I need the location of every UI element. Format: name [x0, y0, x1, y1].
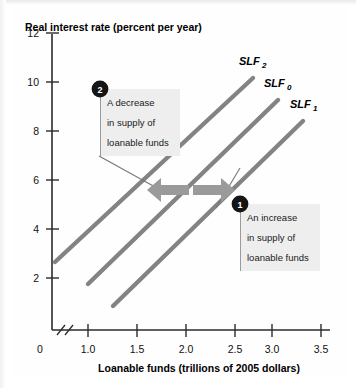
callout-increase-line-1: An increase: [247, 212, 297, 223]
curve-label-slf0: SLF 0: [264, 77, 292, 92]
callout-decrease-marker-number: 2: [97, 85, 102, 95]
x-tick-label-2-0: 2.0: [179, 343, 194, 355]
figure-page: Real interest rate (percent per year) 12…: [0, 0, 356, 388]
increase-shift-arrow-right: [193, 178, 235, 202]
y-tick-label-2: 2: [33, 272, 39, 284]
decrease-shift-arrow-left: [147, 178, 189, 202]
callout-increase-line-2: in supply of: [247, 232, 295, 243]
x-tick-label-1-0: 1.0: [81, 343, 96, 355]
y-tick-label-8: 8: [33, 125, 39, 137]
callout-decrease: A decrease in supply of loanable funds 2: [92, 81, 180, 156]
page-top-shade: [0, 0, 356, 5]
y-tick-label-12: 12: [27, 27, 39, 39]
x-tick-label-2-5: 2.5: [228, 343, 243, 355]
callout-decrease-line-3: loanable funds: [107, 137, 169, 148]
y-tick-label-6: 6: [33, 174, 39, 186]
callout-increase: An increase in supply of loanable funds …: [232, 196, 320, 271]
callout-increase-line-3: loanable funds: [247, 252, 309, 263]
callout-increase-marker-number: 1: [237, 200, 242, 210]
curve-label-slf1-text: SLF: [290, 98, 311, 110]
x-tick-label-3-5: 3.5: [314, 343, 329, 355]
callout-decrease-line-2: in supply of: [107, 117, 155, 128]
y-axis-title: Real interest rate (percent per year): [25, 21, 202, 33]
chart-canvas: Real interest rate (percent per year) 12…: [14, 8, 348, 376]
origin-label: 0: [37, 343, 43, 355]
callout-decrease-line-1: A decrease: [107, 97, 155, 108]
x-tick-label-3-0: 3.0: [265, 343, 280, 355]
curve-label-slf2-text: SLF: [239, 55, 260, 67]
curve-label-slf1-subscript: 1: [313, 104, 318, 113]
curve-label-slf1: SLF 1: [290, 98, 318, 113]
curve-label-slf2-subscript: 2: [261, 61, 267, 70]
curve-label-slf2: SLF 2: [239, 55, 267, 70]
curve-label-slf0-subscript: 0: [287, 83, 292, 92]
x-tick-label-1-5: 1.5: [130, 343, 145, 355]
page-left-shade: [0, 0, 6, 388]
loanable-funds-supply-chart: Real interest rate (percent per year) 12…: [14, 8, 348, 376]
x-axis-title: Loanable funds (trillions of 2005 dollar…: [98, 362, 300, 374]
curve-label-slf0-text: SLF: [264, 77, 285, 89]
y-tick-label-4: 4: [33, 223, 39, 235]
y-tick-label-10: 10: [27, 76, 39, 88]
